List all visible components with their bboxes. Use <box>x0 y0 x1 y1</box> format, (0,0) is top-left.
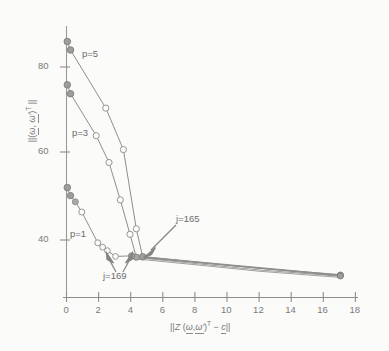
omega-prime-symbol: ω' <box>195 322 204 334</box>
omega-symbol: ω <box>186 322 193 334</box>
x-tick-label-18: 18 <box>349 305 360 315</box>
curve-label-p5: p=5 <box>82 49 98 59</box>
annotation-label-j169: j=169 <box>103 271 127 281</box>
y-title-open: ||( <box>27 135 37 143</box>
x-tick-label-4: 4 <box>128 305 133 315</box>
figure-container: 80 60 40 0 2 4 6 8 10 12 14 16 18 p=5 p=… <box>0 0 389 351</box>
y-title-comma: , <box>27 123 37 128</box>
x-tick-label-16: 16 <box>317 305 328 315</box>
x-title-paren-open: ( <box>180 322 186 332</box>
curve-label-p3: p=3 <box>72 128 88 138</box>
transpose-exponent: T <box>25 107 32 111</box>
annotation-label-j165: j=165 <box>176 214 200 224</box>
omega-symbol: ω <box>27 128 39 135</box>
x-tick-label-2: 2 <box>96 305 101 315</box>
x-title-minus: − <box>211 322 221 332</box>
x-tick-label-6: 6 <box>160 305 165 315</box>
y-axis-title: ||(ω, ω')T || <box>21 61 39 181</box>
x-tick-label-12: 12 <box>253 305 264 315</box>
series-line-p5 <box>67 42 340 276</box>
y-tick-label-80: 80 <box>38 61 49 71</box>
omega-prime-symbol: ω' <box>27 114 39 123</box>
x-tick-label-14: 14 <box>285 305 296 315</box>
x-axis-title: ||Z (ω,ω')T − c|| <box>170 321 230 332</box>
chart-plot <box>0 0 389 351</box>
x-tick-label-8: 8 <box>192 305 197 315</box>
x-title-close: || <box>226 322 231 332</box>
x-tick-label-10: 10 <box>221 305 232 315</box>
annotation-arrow-j165 <box>144 225 177 258</box>
curve-label-p1: p=1 <box>70 229 86 239</box>
x-tick-label-0: 0 <box>64 305 69 315</box>
y-title-tail: || <box>27 100 37 107</box>
y-tick-label-60: 60 <box>38 146 49 156</box>
series-markers-p5 <box>64 38 343 278</box>
y-title-close: ) <box>27 111 37 114</box>
y-tick-label-40: 40 <box>38 234 49 244</box>
